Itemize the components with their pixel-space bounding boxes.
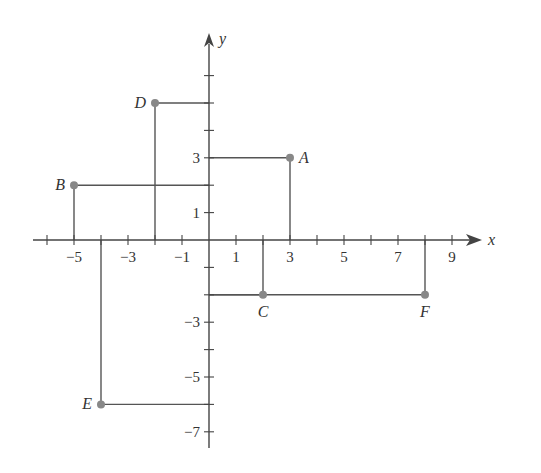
y-tick-label: −5 [184,369,200,385]
y-tick-label: −3 [184,314,200,330]
x-tick-label: 5 [340,249,348,265]
point-label: D [133,94,146,111]
point-label: E [81,395,92,412]
point-label: B [55,176,65,193]
x-tick-label: 1 [232,249,240,265]
point-marker-icon [421,291,429,299]
point-marker-icon [151,99,159,107]
point-marker-icon [259,291,267,299]
x-tick-label: 7 [394,249,402,265]
point-label: A [298,149,309,166]
point-marker-icon [70,181,78,189]
coordinate-plane: x y −5−3−11357931−3−5−7 ABCDEF [0,0,541,473]
x-axis-label: x [487,231,495,248]
axes: x y [33,30,495,448]
y-tick-label: 3 [193,150,201,166]
tick-marks [47,76,452,432]
y-axis-label: y [217,30,227,48]
x-tick-label: 9 [448,249,456,265]
plotted-points: ABCDEF [55,94,430,412]
y-tick-label: −7 [184,424,200,440]
point-label: C [258,303,269,320]
point-marker-icon [97,400,105,408]
x-tick-label: −1 [174,249,190,265]
x-tick-label: −5 [66,249,82,265]
point-marker-icon [286,154,294,162]
point-label: F [419,303,430,320]
y-tick-label: 1 [193,205,201,221]
x-tick-label: −3 [120,249,136,265]
x-tick-label: 3 [286,249,294,265]
